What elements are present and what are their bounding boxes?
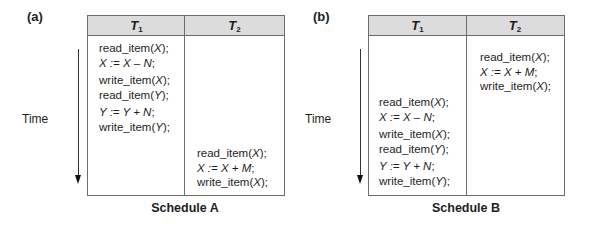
op-line: X := X – N;	[379, 110, 450, 125]
op-line: read_item(X);	[379, 95, 450, 110]
op-line: X := X + M;	[197, 161, 268, 176]
t1-operations: read_item(X); X := X – N; write_item(X);…	[99, 41, 170, 134]
t2-operations: read_item(X); X := X + M; write_item(X);	[480, 50, 551, 94]
schedule-caption: Schedule A	[85, 201, 285, 215]
time-axis-label: Time	[305, 112, 331, 126]
header-t1: T1	[88, 16, 185, 35]
schedule-table: T1 T2 read_item(X); X := X – N; write_it…	[87, 15, 285, 196]
header-t2: T2	[466, 16, 564, 35]
op-line: X := X – N;	[99, 56, 170, 71]
schedule-caption: Schedule B	[366, 201, 566, 215]
column-divider	[466, 16, 467, 195]
op-line: write_item(X);	[480, 79, 551, 94]
op-line: Y := Y + N;	[379, 159, 450, 174]
op-line: write_item(X);	[99, 73, 170, 88]
op-line: read_item(X);	[480, 50, 551, 65]
column-divider	[184, 16, 185, 195]
op-line: read_item(X);	[197, 146, 268, 161]
panel-label: (b)	[313, 9, 330, 24]
arrow-down-icon	[75, 175, 81, 184]
op-line: write_item(Y);	[99, 120, 170, 135]
t1-operations: read_item(X); X := X – N; write_item(X);…	[379, 95, 450, 188]
arrow-down-icon	[357, 175, 363, 184]
op-line: read_item(Y);	[99, 88, 170, 103]
op-line: read_item(X);	[99, 41, 170, 56]
op-line: read_item(Y);	[379, 142, 450, 157]
op-line: write_item(X);	[197, 175, 268, 190]
op-line: write_item(X);	[379, 127, 450, 142]
t2-operations: read_item(X); X := X + M; write_item(X);	[197, 146, 268, 190]
time-arrow-line	[78, 49, 79, 177]
time-axis-label: Time	[22, 112, 48, 126]
schedule-table: T1 T2 read_item(X); X := X + M; write_it…	[368, 15, 565, 196]
time-arrow-line	[360, 49, 361, 177]
header-t1: T1	[369, 16, 466, 35]
op-line: Y := Y + N;	[99, 105, 170, 120]
panel-label: (a)	[27, 9, 43, 24]
table-header: T1 T2	[88, 16, 284, 36]
op-line: write_item(Y);	[379, 174, 450, 189]
op-line: X := X + M;	[480, 65, 551, 80]
header-t2: T2	[185, 16, 284, 35]
